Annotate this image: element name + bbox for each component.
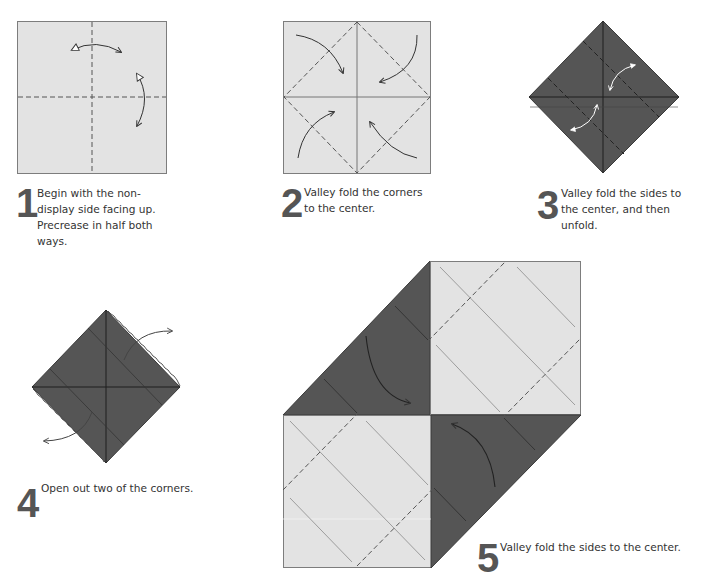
step-number: 1	[16, 183, 37, 223]
origami-diagram	[0, 0, 702, 586]
step-1-figure	[18, 22, 167, 174]
step-instruction: Valley fold the sides to the center.	[500, 539, 702, 555]
step-instruction: Open out two of the corners.	[41, 480, 241, 496]
step-3-figure	[529, 21, 679, 173]
paper-square	[431, 262, 581, 415]
step-instruction: Valley fold the sides to the center, and…	[561, 185, 701, 233]
step-instruction: Begin with the non- display side facing …	[37, 185, 177, 249]
step-4-figure	[32, 310, 180, 463]
step-2-figure	[284, 22, 431, 174]
step-5-figure	[283, 261, 581, 568]
step-number: 4	[17, 483, 38, 523]
step-number: 2	[281, 183, 302, 223]
step-number: 3	[537, 185, 558, 225]
step-instruction: Valley fold the corners to the center.	[304, 184, 454, 216]
step-number: 5	[477, 538, 498, 578]
paper-square	[284, 416, 432, 568]
dark-flap	[283, 261, 430, 415]
